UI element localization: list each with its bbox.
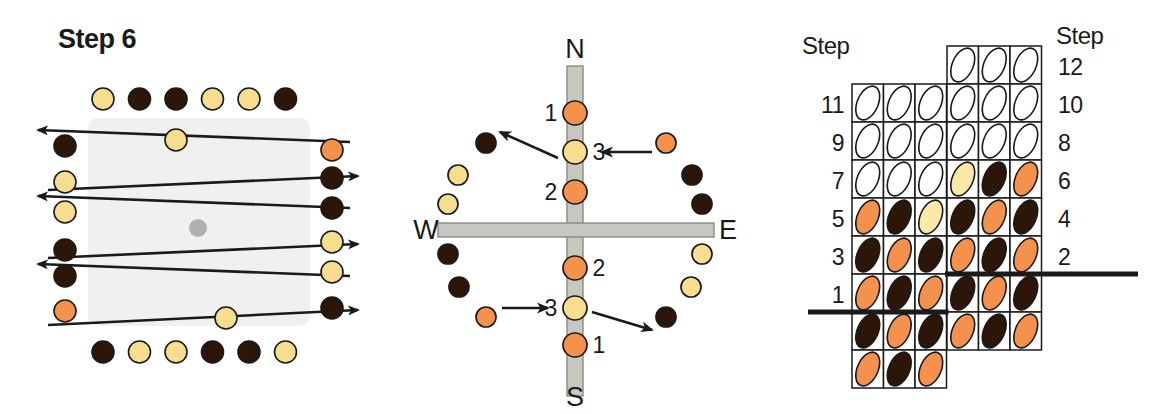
orbit-dot — [92, 88, 114, 110]
compass-dot — [563, 333, 587, 357]
compass-panel: NSWE132231 — [390, 0, 790, 414]
left-step-grid — [851, 82, 948, 389]
step-grid-diagram — [790, 0, 1164, 414]
orbit-dot — [165, 88, 187, 110]
center-gray-dot — [189, 219, 207, 237]
grid-left-step-label: 5 — [800, 206, 844, 233]
orbit-dot — [202, 341, 224, 363]
right-step-grid — [946, 44, 1043, 351]
orbit-dot — [54, 239, 76, 261]
compass-dot — [563, 101, 587, 125]
compass-arrow — [500, 132, 558, 158]
grid-right-step-label: 4 — [1058, 206, 1102, 233]
orbit-dot — [202, 88, 224, 110]
compass-dot — [449, 277, 469, 297]
orbit-dot — [54, 265, 76, 287]
compass-dot — [563, 180, 587, 204]
compass-dot — [681, 277, 701, 297]
compass-dot — [563, 256, 587, 280]
orbit-dot — [321, 261, 343, 283]
compass-dot — [448, 165, 468, 185]
page-title: Step 6 — [58, 24, 136, 55]
orbit-dot — [321, 167, 343, 189]
compass-label-west: W — [413, 215, 439, 245]
orbit-dot — [215, 307, 237, 329]
compass-label-east: E — [719, 215, 737, 245]
compass-label-south: S — [566, 382, 584, 412]
compass-axis-number: 2 — [593, 255, 606, 281]
compass-dot — [563, 296, 587, 320]
orbit-dot — [54, 135, 76, 157]
grid-right-step-label: 12 — [1058, 54, 1102, 81]
orbit-dot — [54, 171, 76, 193]
orbit-dot — [92, 341, 114, 363]
orbit-dot — [321, 197, 343, 219]
compass-axis-number: 1 — [545, 100, 558, 126]
orbit-rows-panel: Step 6 — [0, 0, 390, 414]
orbit-dot — [321, 297, 343, 319]
compass-diagram: NSWE132231 — [390, 0, 790, 414]
grid-right-step-label: 10 — [1058, 92, 1102, 119]
compass-dot — [692, 194, 712, 214]
grid-right-step-label: 8 — [1058, 130, 1102, 157]
compass-label-north: N — [565, 34, 585, 64]
compass-dot — [476, 307, 496, 327]
compass-dot — [563, 140, 587, 164]
grid-left-step-label: 9 — [800, 130, 844, 157]
compass-dot — [476, 133, 496, 153]
compass-dot — [438, 194, 458, 214]
orbit-dot — [54, 300, 76, 322]
compass-horizontal-bar — [438, 223, 714, 237]
step-grid-panel: Step Step 1197531 12108642 — [790, 0, 1164, 414]
orbit-dot — [54, 201, 76, 223]
compass-arrow — [592, 312, 652, 330]
compass-dot — [656, 133, 676, 153]
grid-left-header: Step — [802, 32, 849, 60]
grid-right-header: Step — [1056, 22, 1103, 50]
grid-right-step-label: 6 — [1058, 168, 1102, 195]
compass-dot — [682, 165, 702, 185]
orbit-dot — [321, 231, 343, 253]
grid-left-step-label: 7 — [800, 168, 844, 195]
compass-axis-number: 1 — [593, 332, 606, 358]
orbit-dot — [275, 88, 297, 110]
orbit-dot — [238, 341, 260, 363]
compass-dot — [656, 307, 676, 327]
orbit-dot — [129, 88, 151, 110]
orbit-dot — [129, 341, 151, 363]
compass-axis-number: 2 — [545, 179, 558, 205]
orbit-dot — [165, 129, 187, 151]
grid-right-step-label: 2 — [1058, 244, 1102, 271]
grid-left-step-label: 1 — [800, 282, 844, 309]
orbit-dot — [238, 88, 260, 110]
grid-left-step-label: 3 — [800, 244, 844, 271]
orbit-dot — [321, 139, 343, 161]
compass-dot — [692, 244, 712, 264]
compass-dot — [438, 244, 458, 264]
grid-left-step-label: 11 — [800, 92, 844, 119]
orbit-dot — [275, 341, 297, 363]
orbit-dot — [165, 341, 187, 363]
orbit-rows-diagram — [0, 0, 390, 414]
